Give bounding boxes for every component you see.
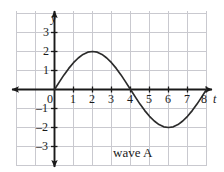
x-tick-label-1: 1 bbox=[70, 93, 76, 105]
x-tick-label-4: 4 bbox=[127, 93, 133, 105]
y-tick-label-minus-2: –2 bbox=[36, 121, 48, 133]
x-tick-label-7: 7 bbox=[184, 93, 190, 105]
y-tick-label-2: 2 bbox=[43, 45, 49, 57]
wave-a-graph-figure: y t 3 2 1 –1 –2 –3 0 1 2 3 4 5 6 7 8 wav… bbox=[0, 0, 224, 172]
x-tick-label-6: 6 bbox=[165, 93, 171, 105]
x-tick-label-8: 8 bbox=[201, 93, 207, 105]
y-tick-label-minus-3: –3 bbox=[36, 140, 48, 152]
y-tick-label-1: 1 bbox=[43, 64, 49, 76]
x-tick-label-0: 0 bbox=[47, 93, 53, 105]
x-tick-label-2: 2 bbox=[89, 93, 95, 105]
x-tick-label-5: 5 bbox=[146, 93, 152, 105]
x-tick-label-3: 3 bbox=[108, 93, 114, 105]
y-axis-label: y bbox=[51, 12, 56, 24]
x-axis-label: t bbox=[213, 93, 216, 105]
y-tick-label-3: 3 bbox=[43, 26, 49, 38]
chart-caption: wave A bbox=[113, 146, 152, 159]
plot-canvas bbox=[0, 0, 224, 172]
